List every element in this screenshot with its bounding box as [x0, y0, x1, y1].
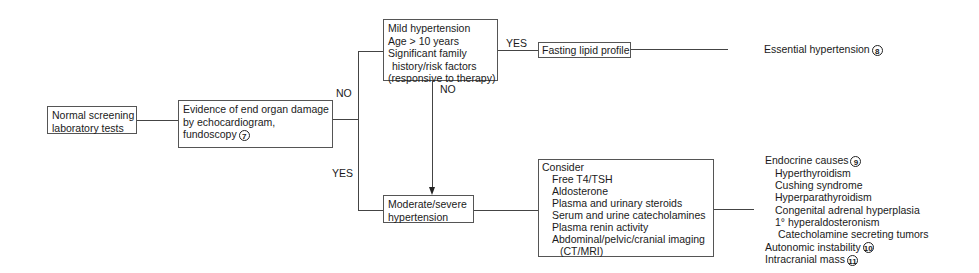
test-item: Free T4/TSH: [542, 173, 710, 185]
endocrine-item: 1° hyperaldosteronism: [765, 216, 929, 228]
outcome-autonomic-instability: Autonomic instability: [765, 241, 861, 253]
connector: [498, 50, 538, 51]
connector: [333, 119, 358, 120]
outcome-essential-hypertension: Essential hypertension8: [764, 43, 883, 56]
node-consider-tests: Consider Free T4/TSH Aldosterone Plasma …: [538, 159, 714, 257]
node-text: by echocardiogram,: [183, 116, 328, 129]
connector: [714, 209, 754, 210]
outcome-text: Essential hypertension: [764, 43, 870, 55]
edge-label-yes: YES: [332, 167, 353, 179]
connector: [474, 210, 538, 211]
outcome-endocrine-causes: Endocrine causes: [765, 154, 848, 166]
node-text: Normal screening: [52, 109, 132, 122]
reference-number-badge: 9: [850, 156, 861, 167]
endocrine-item: Congenital adrenal hyperplasia: [765, 204, 929, 216]
test-item: (CT/MRI): [542, 245, 710, 257]
node-evidence-end-organ-damage: Evidence of end organ damage by echocard…: [178, 100, 333, 148]
outcome-intracranial-mass: Intracranial mass: [765, 253, 845, 265]
test-item: Plasma renin activity: [542, 221, 710, 233]
endocrine-item: Catecholamine secreting tumors: [765, 228, 929, 240]
outcomes-list: Endocrine causes9 Hyperthyroidism Cushin…: [765, 154, 929, 266]
reference-number-badge: 10: [863, 242, 874, 253]
test-item: Abdominal/pelvic/cranial imaging: [542, 233, 710, 245]
node-text: Evidence of end organ damage: [183, 103, 328, 116]
node-text: Age > 10 years: [388, 35, 493, 48]
arrow-down-icon: [429, 187, 435, 195]
node-text: Moderate/severe: [388, 198, 469, 211]
endocrine-item: Hyperparathyroidism: [765, 191, 929, 203]
node-text: Mild hypertension: [388, 22, 493, 35]
test-item: Serum and urine catecholamines: [542, 209, 710, 221]
test-item: Plasma and urinary steroids: [542, 197, 710, 209]
reference-number-badge: 11: [847, 255, 858, 266]
test-item: Aldosterone: [542, 185, 710, 197]
node-mild-hypertension: Mild hypertension Age > 10 years Signifi…: [383, 19, 498, 81]
connector: [137, 120, 178, 121]
node-moderate-severe-hypertension: Moderate/severe hypertension: [383, 195, 474, 223]
node-text: fundoscopy: [183, 128, 237, 140]
connector: [432, 81, 433, 188]
node-text: Significant family: [388, 47, 493, 60]
connector: [631, 49, 728, 50]
connector: [358, 210, 383, 211]
reference-number-badge: 8: [872, 45, 883, 56]
node-text: laboratory tests: [52, 122, 132, 135]
connector: [358, 51, 383, 52]
edge-label-no: NO: [336, 87, 352, 99]
endocrine-item: Cushing syndrome: [765, 179, 929, 191]
node-text: Fasting lipid profile: [542, 44, 627, 56]
node-text: hypertension: [388, 211, 469, 224]
node-fasting-lipid-profile: Fasting lipid profile: [538, 42, 631, 58]
node-normal-screening: Normal screening laboratory tests: [47, 106, 137, 134]
edge-label-no: NO: [440, 83, 456, 95]
connector: [358, 51, 359, 210]
edge-label-yes: YES: [506, 37, 527, 49]
node-title: Consider: [542, 161, 710, 173]
endocrine-item: Hyperthyroidism: [765, 167, 929, 179]
reference-number-badge: 7: [239, 130, 250, 141]
node-text: history/risk factors: [388, 60, 493, 73]
